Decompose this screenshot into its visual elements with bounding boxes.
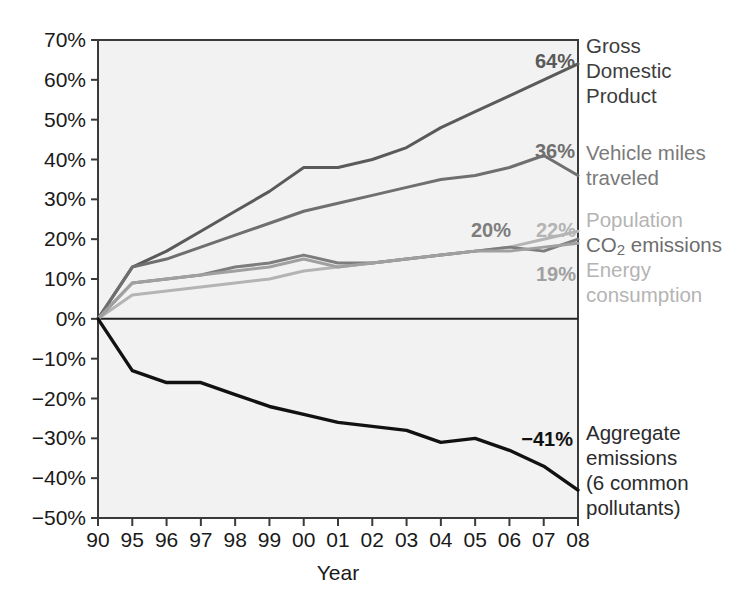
x-tick-label: 96 — [155, 528, 178, 551]
series-label-line: Gross — [586, 34, 641, 57]
y-tick-label: −40% — [32, 466, 86, 489]
series-label-line: Energy — [586, 258, 652, 281]
x-tick-label: 06 — [498, 528, 521, 551]
series-label-line: consumption — [586, 283, 702, 306]
x-tick-label: 98 — [223, 528, 246, 551]
series-label-3: CO2 emissions — [586, 233, 722, 258]
x-axis-title: Year — [317, 561, 359, 584]
x-tick-label: 97 — [189, 528, 212, 551]
x-tick-label: 04 — [429, 528, 453, 551]
y-tick-label: −10% — [32, 347, 86, 370]
line-chart: 70%60%50%40%30%20%10%0%−10%−20%−30%−40%−… — [0, 0, 739, 594]
x-tick-label: 90 — [86, 528, 109, 551]
value-label-5: −41% — [521, 428, 573, 450]
x-tick-label: 07 — [532, 528, 555, 551]
x-tick-label: 01 — [326, 528, 349, 551]
y-tick-label: 10% — [44, 267, 86, 290]
chart-figure: 70%60%50%40%30%20%10%0%−10%−20%−30%−40%−… — [0, 0, 739, 594]
y-tick-label: −20% — [32, 387, 86, 410]
x-tick-label: 02 — [361, 528, 384, 551]
x-tick-label: 03 — [395, 528, 418, 551]
y-tick-label: −30% — [32, 426, 86, 449]
y-tick-label: 50% — [44, 108, 86, 131]
x-tick-label: 00 — [292, 528, 315, 551]
value-label-3: 20% — [471, 219, 511, 241]
series-label-line: Population — [586, 208, 683, 231]
series-label-line: CO2 emissions — [586, 233, 722, 258]
series-label-line: Aggregate — [586, 421, 681, 444]
y-tick-label: 0% — [56, 307, 86, 330]
value-label-0: 64% — [535, 50, 575, 72]
value-label-4: 19% — [536, 263, 576, 285]
x-tick-label: 05 — [463, 528, 486, 551]
y-tick-label: 60% — [44, 68, 86, 91]
y-tick-label: 40% — [44, 148, 86, 171]
x-tick-label: 08 — [566, 528, 589, 551]
series-label-line: pollutants) — [586, 496, 681, 519]
value-label-2: 22% — [536, 219, 576, 241]
x-tick-label: 99 — [258, 528, 281, 551]
y-tick-label: 20% — [44, 227, 86, 250]
y-tick-label: 30% — [44, 187, 86, 210]
series-label-line: (6 common — [586, 471, 689, 494]
series-label-line: traveled — [586, 166, 659, 189]
series-label-2: Population — [586, 208, 683, 231]
series-label-line: Domestic — [586, 59, 671, 82]
series-label-line: emissions — [586, 446, 677, 469]
series-label-line: Product — [586, 84, 657, 107]
series-label-line: Vehicle miles — [586, 141, 706, 164]
x-tick-label: 95 — [121, 528, 144, 551]
y-tick-label: 70% — [44, 28, 86, 51]
value-label-1: 36% — [535, 140, 575, 162]
y-tick-label: −50% — [32, 506, 86, 529]
